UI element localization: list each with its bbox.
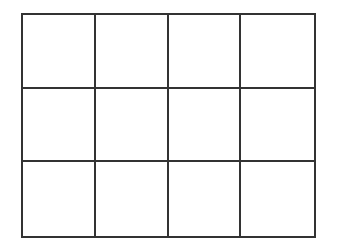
grid-cell-r2-c1: [23, 89, 96, 163]
grid-cell-r3-c4: [241, 162, 314, 236]
grid-cell-r3-c3: [169, 162, 242, 236]
grid-cell-r2-c4: [241, 89, 314, 163]
grid-cell-r2-c2: [96, 89, 169, 163]
grid-cell-r1-c3: [169, 15, 242, 89]
grid-cell-r1-c4: [241, 15, 314, 89]
grid-table: [21, 13, 316, 238]
grid-cell-r3-c2: [96, 162, 169, 236]
grid-cell-r1-c1: [23, 15, 96, 89]
grid-cell-r2-c3: [169, 89, 242, 163]
grid-cell-r1-c2: [96, 15, 169, 89]
grid-cell-r3-c1: [23, 162, 96, 236]
